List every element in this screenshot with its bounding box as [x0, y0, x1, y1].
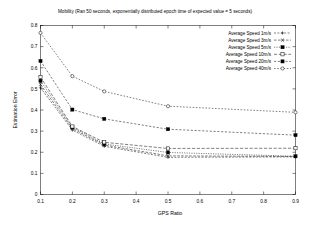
data-point-marker	[103, 141, 106, 144]
chart-figure: Mobility (Ran 50 seconds, exponentially …	[0, 0, 310, 227]
legend-item-label: Average Speed 3m/s	[228, 38, 272, 43]
x-tick-label: 0.2	[69, 199, 76, 204]
legend-item[interactable]: Average Speed 20m/s	[226, 59, 291, 64]
legend-item[interactable]: Average Speed 1m/s	[228, 31, 291, 36]
data-point-marker	[103, 90, 106, 93]
data-point-marker	[281, 60, 284, 63]
x-tick-label: 0.4	[133, 199, 140, 204]
data-point-marker	[281, 46, 284, 49]
y-tick-label: 0.6	[31, 66, 38, 71]
legend-item-label: Average Speed 20m/s	[226, 59, 272, 64]
data-series	[39, 75, 297, 150]
data-point-marker	[281, 31, 284, 34]
data-point-marker	[166, 147, 169, 150]
y-tick-label: 0.4	[31, 108, 38, 113]
legend-item-label: Average Speed 5m/s	[228, 45, 272, 50]
series-line	[41, 77, 296, 148]
legend-item[interactable]: Average Speed 10m/s	[226, 52, 291, 57]
y-tick-label: 0.3	[31, 129, 38, 134]
data-point-marker	[71, 125, 74, 128]
x-tick-label: 0.7	[228, 199, 235, 204]
data-point-marker	[39, 79, 42, 82]
legend-item[interactable]: Average Speed 3m/s	[228, 38, 291, 43]
series-line	[41, 61, 296, 135]
data-point-marker	[71, 75, 74, 78]
data-point-marker	[103, 117, 106, 120]
legend-item[interactable]: Average Speed 5m/s	[228, 45, 291, 50]
x-axis-title: GPS Ratio	[158, 210, 183, 216]
legend-item[interactable]: Average Speed 40m/s	[226, 66, 291, 71]
x-tick-label: 0.9	[292, 199, 299, 204]
y-axis-title: Estimation Error	[12, 91, 18, 128]
chart-plot-area: 0.10.20.30.40.50.60.70.80.9 00.10.20.30.…	[0, 0, 310, 227]
data-series	[39, 31, 297, 114]
x-tick-label: 0.6	[197, 199, 204, 204]
x-tick-label: 0.1	[37, 199, 44, 204]
y-tick-label: 0.2	[31, 150, 38, 155]
data-point-marker	[294, 111, 297, 114]
y-tick-label: 0.1	[31, 171, 38, 176]
data-point-marker	[166, 128, 169, 131]
data-series	[39, 79, 297, 158]
series-line	[41, 81, 296, 156]
legend-item-label: Average Speed 40m/s	[226, 66, 272, 71]
chart-legend: Average Speed 1m/sAverage Speed 3m/sAver…	[226, 31, 291, 71]
series-line	[41, 85, 296, 157]
data-point-marker	[166, 105, 169, 108]
data-point-marker	[294, 147, 297, 150]
data-point-marker	[71, 108, 74, 111]
data-point-marker	[39, 31, 42, 34]
x-tick-label: 0.3	[101, 199, 108, 204]
data-point-marker	[39, 59, 42, 62]
data-point-marker	[39, 75, 42, 78]
y-tick-label: 0	[35, 192, 38, 197]
data-point-marker	[281, 67, 284, 70]
x-tick-label: 0.8	[260, 199, 267, 204]
y-tick-label: 0.5	[31, 87, 38, 92]
legend-item-label: Average Speed 10m/s	[226, 52, 272, 57]
data-point-marker	[281, 53, 284, 56]
x-tick-label: 0.5	[165, 199, 172, 204]
data-point-marker	[294, 155, 297, 158]
data-point-marker	[294, 134, 297, 137]
plot-frame	[41, 26, 296, 195]
y-tick-label: 0.8	[31, 23, 38, 28]
data-point-marker	[166, 151, 169, 154]
y-tick-label: 0.7	[31, 44, 38, 49]
data-series-group	[39, 31, 297, 159]
legend-item-label: Average Speed 1m/s	[228, 31, 272, 36]
